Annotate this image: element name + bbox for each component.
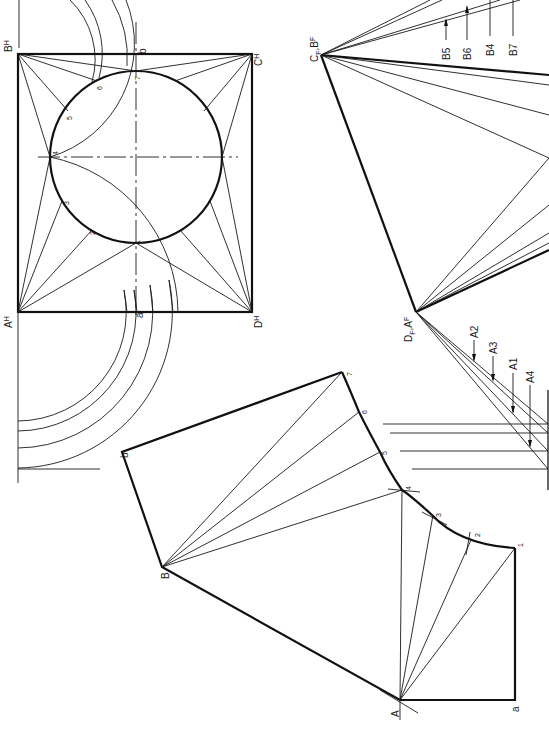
pattern-point-3: 3 [435, 513, 442, 517]
callout-a3: A3 [488, 341, 499, 354]
plan-point-5: 5 [66, 116, 73, 120]
label-seam-b: b [137, 48, 148, 54]
label-df-af: DF,AF [403, 317, 416, 342]
plan-point-4: 4 [52, 151, 59, 155]
arcs-upper [50, 0, 134, 157]
radials-a [18, 157, 136, 312]
pattern-label-b-lower: b [119, 452, 130, 458]
callout-a2: A2 [469, 325, 480, 338]
transition-piece-drawing: BH CH AH DH b a 1 2 3 4 5 6 7 [0, 0, 549, 730]
label-c-h: CH [253, 54, 264, 66]
true-length-diagrams: B5 B6 B4 B7 A2 A3 A1 A4 CF,BF DF,AF [309, 0, 549, 490]
pattern-point-6: 6 [361, 410, 368, 414]
pattern-point-5: 5 [381, 451, 388, 455]
label-d-h: DH [253, 316, 264, 328]
label-b-h: BH [3, 40, 14, 52]
apex-connector [321, 55, 416, 312]
pattern-point-4: 4 [405, 486, 412, 490]
pattern-point-7: 7 [346, 372, 353, 376]
plan-point-7: 7 [134, 76, 141, 80]
label-seam-a: a [134, 312, 145, 318]
radials-d [136, 157, 252, 312]
pattern-label-b-upper: B [160, 572, 171, 579]
pattern-point-1: 1 [517, 543, 524, 547]
label-cf-bf: CF,BF [309, 37, 322, 62]
b-callouts: B5 B6 B4 B7 [441, 0, 519, 60]
callout-b7: B7 [508, 43, 519, 56]
callout-b6: B6 [462, 47, 473, 60]
pattern-outline [122, 372, 515, 700]
radials-c [136, 54, 252, 157]
callout-a4: A4 [525, 370, 536, 383]
label-a-h: AH [3, 316, 14, 328]
callout-a1: A1 [508, 357, 519, 370]
plan-point-1: 1 [134, 240, 141, 244]
pattern-point-2: 2 [474, 533, 481, 537]
plan-point-3: 3 [63, 201, 70, 205]
pattern-label-a-lower: a [510, 706, 521, 712]
plan-point-6: 6 [96, 86, 103, 90]
plan-view: BH CH AH DH b a 1 2 3 4 5 6 7 [3, 0, 264, 483]
callout-b4: B4 [485, 43, 496, 56]
pattern-label-a-upper: A [390, 710, 401, 717]
radials-b [18, 54, 136, 157]
plan-point-2: 2 [89, 231, 96, 235]
callout-b5: B5 [441, 47, 452, 60]
